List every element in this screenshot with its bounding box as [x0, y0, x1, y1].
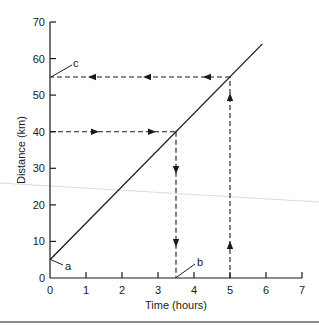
x-tick-3: 3 [155, 284, 161, 296]
x-axis-title: Time (hours) [145, 299, 207, 311]
y-tick-30: 30 [33, 162, 45, 174]
annotation-a: a [65, 260, 72, 272]
x-tick-4: 4 [191, 284, 197, 296]
annotation-c-leader [51, 65, 72, 77]
arrow-up-icon [227, 241, 233, 249]
y-tick-labels: 70 60 50 40 30 20 10 0 [33, 16, 45, 284]
y-tick-20: 20 [33, 199, 45, 211]
y-tick-70: 70 [33, 16, 45, 28]
annotation-b: b [197, 256, 203, 268]
scan-artifact-line [0, 183, 319, 202]
y-tick-60: 60 [33, 53, 45, 65]
annotation-b-leader [177, 264, 195, 277]
arrow-left-icon [88, 74, 96, 80]
y-tick-0: 0 [39, 272, 45, 284]
x-tick-7: 7 [299, 284, 305, 296]
guide-lines [50, 77, 230, 278]
y-axis [50, 22, 56, 278]
distance-time-chart: 70 60 50 40 30 20 10 0 0 1 2 3 4 5 6 7 T… [0, 0, 319, 326]
arrowheads [88, 74, 233, 249]
arrow-down-icon [173, 166, 179, 174]
annotations [51, 65, 195, 277]
annotation-a-leader [51, 260, 63, 265]
arrow-right-icon [91, 129, 99, 135]
x-tick-5: 5 [227, 284, 233, 296]
x-tick-1: 1 [83, 284, 89, 296]
arrow-up-icon [227, 93, 233, 101]
y-axis-title: Distance (km) [15, 116, 27, 184]
y-tick-10: 10 [33, 235, 45, 247]
arrow-right-icon [148, 129, 156, 135]
arrow-left-icon [143, 74, 151, 80]
annotation-c: c [73, 57, 79, 69]
y-tick-40: 40 [33, 126, 45, 138]
x-tick-labels: 0 1 2 3 4 5 6 7 [47, 284, 305, 296]
arrow-left-icon [203, 74, 211, 80]
arrow-down-icon [173, 239, 179, 247]
x-tick-6: 6 [263, 284, 269, 296]
y-tick-50: 50 [33, 89, 45, 101]
x-tick-2: 2 [119, 284, 125, 296]
x-tick-0: 0 [47, 284, 53, 296]
